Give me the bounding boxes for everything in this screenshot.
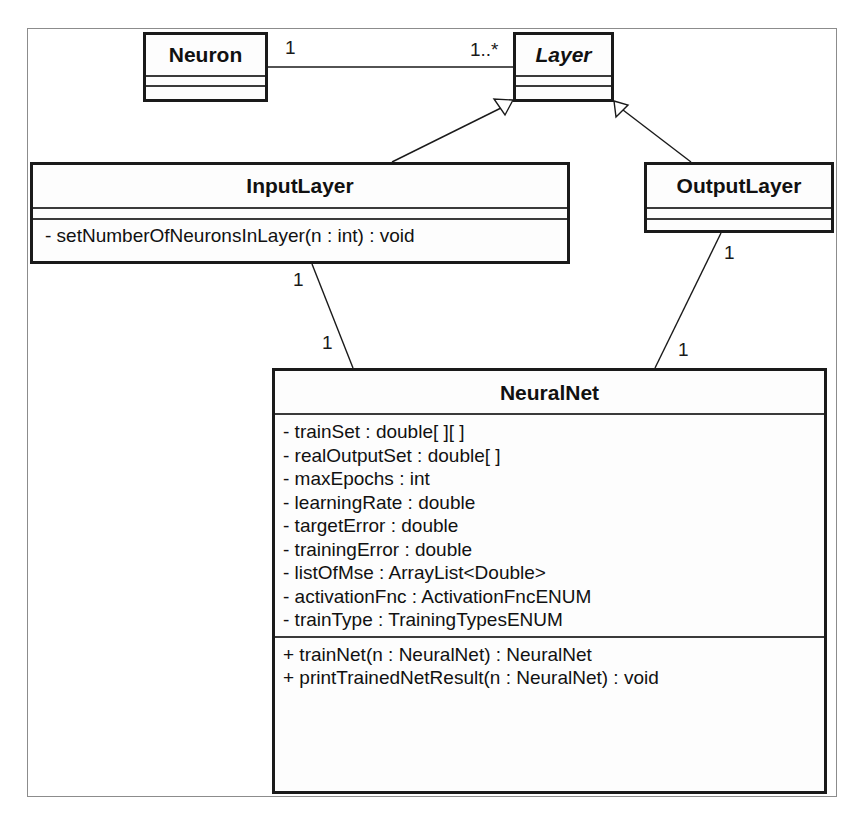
- class-input-layer[interactable]: InputLayer - setNumberOfNeuronsInLayer(n…: [30, 162, 570, 264]
- attribute-item: - trainSet : double[ ][ ]: [275, 420, 824, 444]
- attribute-item: - trainingError : double: [275, 538, 824, 562]
- multiplicity-neuralnet-output-end: 1: [678, 340, 689, 360]
- class-neuron[interactable]: Neuron: [143, 32, 268, 102]
- attributes-compartment: [146, 77, 265, 87]
- multiplicity-neuralnet-input-end: 1: [322, 333, 333, 353]
- class-layer[interactable]: Layer: [513, 32, 614, 102]
- attribute-item: - realOutputSet : double[ ]: [275, 444, 824, 468]
- attributes-compartment: - trainSet : double[ ][ ] - realOutputSe…: [275, 415, 824, 638]
- attributes-compartment: [516, 77, 611, 87]
- class-name: Layer: [516, 35, 611, 77]
- class-name: NeuralNet: [275, 371, 824, 415]
- multiplicity-neuron-end: 1: [285, 38, 296, 58]
- class-name: Neuron: [146, 35, 265, 77]
- multiplicity-outputlayer-end: 1: [724, 243, 735, 263]
- operation-item: + trainNet(n : NeuralNet) : NeuralNet: [275, 643, 824, 667]
- attributes-compartment: [647, 209, 831, 220]
- multiplicity-inputlayer-end: 1: [293, 270, 304, 290]
- multiplicity-layer-end: 1..*: [470, 40, 499, 60]
- attribute-item: - maxEpochs : int: [275, 467, 824, 491]
- attribute-item: - activationFnc : ActivationFncENUM: [275, 585, 824, 609]
- class-neural-net[interactable]: NeuralNet - trainSet : double[ ][ ] - re…: [272, 368, 827, 794]
- class-name: OutputLayer: [647, 165, 831, 209]
- operations-compartment: + trainNet(n : NeuralNet) : NeuralNet + …: [275, 638, 824, 690]
- attribute-item: - learningRate : double: [275, 491, 824, 515]
- attributes-compartment: [33, 209, 567, 220]
- operation-item: - setNumberOfNeuronsInLayer(n : int) : v…: [33, 224, 567, 248]
- operations-compartment: - setNumberOfNeuronsInLayer(n : int) : v…: [33, 220, 567, 248]
- attribute-item: - listOfMse : ArrayList<Double>: [275, 561, 824, 585]
- operation-item: + printTrainedNetResult(n : NeuralNet) :…: [275, 666, 824, 690]
- attribute-item: - targetError : double: [275, 514, 824, 538]
- class-name: InputLayer: [33, 165, 567, 209]
- attribute-item: - trainType : TrainingTypesENUM: [275, 608, 824, 632]
- class-output-layer[interactable]: OutputLayer: [644, 162, 834, 233]
